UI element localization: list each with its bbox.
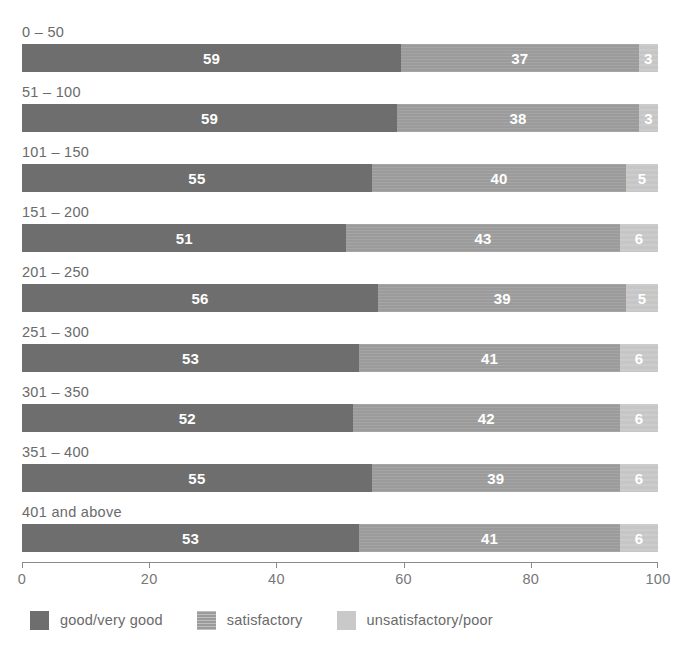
bar-segment: 6 — [620, 224, 658, 252]
x-axis-tick — [657, 562, 658, 568]
bar-segment: 6 — [620, 404, 658, 432]
bar-segment: 59 — [22, 44, 401, 72]
bar-segment-value: 53 — [182, 531, 199, 546]
legend-swatch-icon — [337, 611, 356, 630]
bar-segment: 53 — [22, 524, 359, 552]
chart-row: 201 – 25056395 — [0, 262, 674, 322]
x-axis-tick — [531, 562, 532, 568]
legend-item[interactable]: unsatisfactory/poor — [337, 611, 493, 630]
row-category-label: 51 – 100 — [22, 82, 81, 102]
x-axis: 020406080100 — [22, 562, 658, 592]
bar-segment-value: 6 — [635, 531, 644, 546]
bar-segment: 42 — [353, 404, 620, 432]
legend-swatch-icon — [30, 611, 49, 630]
bar-segment-value: 3 — [644, 111, 653, 126]
bar-segment-value: 41 — [481, 351, 498, 366]
x-axis-tick-label: 80 — [522, 571, 539, 587]
stacked-bar: 51436 — [22, 224, 658, 252]
x-axis-tick — [404, 562, 405, 568]
bar-segment: 5 — [626, 164, 658, 192]
chart-legend: good/very goodsatisfactoryunsatisfactory… — [30, 608, 527, 632]
bar-segment: 6 — [620, 464, 658, 492]
legend-item-label: good/very good — [60, 612, 163, 628]
bar-segment-value: 55 — [188, 171, 205, 186]
bar-segment-value: 6 — [635, 351, 644, 366]
stacked-bar: 53416 — [22, 524, 658, 552]
x-axis-tick-label: 60 — [395, 571, 412, 587]
chart-row: 151 – 20051436 — [0, 202, 674, 262]
stacked-bar: 53416 — [22, 344, 658, 372]
chart-rows: 0 – 505937351 – 10059383101 – 1505540515… — [0, 22, 674, 562]
bar-segment: 40 — [372, 164, 626, 192]
stacked-bar: 59383 — [22, 104, 658, 132]
bar-segment-value: 5 — [638, 171, 647, 186]
row-category-label: 0 – 50 — [22, 22, 64, 42]
bar-segment-value: 39 — [487, 471, 504, 486]
x-axis-tick — [22, 562, 23, 568]
bar-segment: 37 — [401, 44, 639, 72]
stacked-bar-chart: 0 – 505937351 – 10059383101 – 1505540515… — [0, 0, 674, 649]
legend-item[interactable]: good/very good — [30, 611, 163, 630]
chart-row: 51 – 10059383 — [0, 82, 674, 142]
x-axis-tick-label: 100 — [645, 571, 670, 587]
row-category-label: 251 – 300 — [22, 322, 89, 342]
bar-segment-value: 42 — [478, 411, 495, 426]
bar-segment: 41 — [359, 524, 620, 552]
stacked-bar: 56395 — [22, 284, 658, 312]
bar-segment-value: 40 — [490, 171, 507, 186]
bar-segment: 39 — [378, 284, 626, 312]
bar-segment: 52 — [22, 404, 353, 432]
x-axis-tick — [149, 562, 150, 568]
bar-segment: 38 — [397, 104, 639, 132]
stacked-bar: 55396 — [22, 464, 658, 492]
bar-segment: 53 — [22, 344, 359, 372]
x-axis-tick-label: 20 — [141, 571, 158, 587]
bar-segment: 43 — [346, 224, 619, 252]
bar-segment: 56 — [22, 284, 378, 312]
chart-row: 251 – 30053416 — [0, 322, 674, 382]
row-category-label: 101 – 150 — [22, 142, 89, 162]
row-category-label: 151 – 200 — [22, 202, 89, 222]
stacked-bar: 55405 — [22, 164, 658, 192]
bar-segment-value: 6 — [635, 471, 644, 486]
chart-row: 351 – 40055396 — [0, 442, 674, 502]
legend-item[interactable]: satisfactory — [197, 611, 303, 630]
bar-segment-value: 37 — [511, 51, 528, 66]
row-category-label: 401 and above — [22, 502, 122, 522]
bar-segment: 5 — [626, 284, 658, 312]
bar-segment: 51 — [22, 224, 346, 252]
bar-segment-value: 6 — [635, 411, 644, 426]
chart-row: 401 and above53416 — [0, 502, 674, 562]
bar-segment-value: 53 — [182, 351, 199, 366]
bar-segment-value: 41 — [481, 531, 498, 546]
x-axis-tick-label: 40 — [268, 571, 285, 587]
bar-segment: 6 — [620, 524, 658, 552]
bar-segment-value: 55 — [188, 471, 205, 486]
bar-segment: 39 — [372, 464, 620, 492]
bar-segment-value: 43 — [475, 231, 492, 246]
bar-segment: 59 — [22, 104, 397, 132]
x-axis-tick — [276, 562, 277, 568]
bar-segment-value: 6 — [635, 231, 644, 246]
bar-segment-value: 56 — [192, 291, 209, 306]
legend-swatch-icon — [197, 611, 216, 630]
bar-segment-value: 52 — [179, 411, 196, 426]
chart-row: 101 – 15055405 — [0, 142, 674, 202]
bar-segment: 6 — [620, 344, 658, 372]
chart-row: 301 – 35052426 — [0, 382, 674, 442]
stacked-bar: 52426 — [22, 404, 658, 432]
bar-segment-value: 39 — [494, 291, 511, 306]
bar-segment: 55 — [22, 164, 372, 192]
x-axis-tick-label: 0 — [18, 571, 26, 587]
legend-item-label: satisfactory — [227, 612, 303, 628]
bar-segment-value: 3 — [644, 51, 653, 66]
stacked-bar: 59373 — [22, 44, 658, 72]
bar-segment-value: 5 — [638, 291, 647, 306]
bar-segment: 41 — [359, 344, 620, 372]
bar-segment: 55 — [22, 464, 372, 492]
x-axis-line — [22, 562, 658, 563]
row-category-label: 351 – 400 — [22, 442, 89, 462]
bar-segment: 3 — [639, 104, 658, 132]
legend-item-label: unsatisfactory/poor — [367, 612, 493, 628]
bar-segment-value: 59 — [201, 111, 218, 126]
